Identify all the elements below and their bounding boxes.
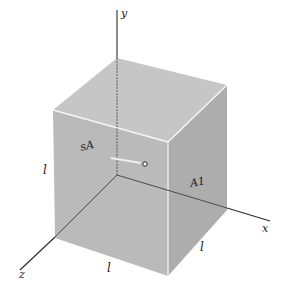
edge-label-front-bottom: l	[107, 261, 111, 275]
face-label-right: A1	[188, 175, 206, 191]
x-axis-label: x	[262, 222, 269, 235]
x-axis	[227, 208, 270, 221]
edge-label-right-bottom: l	[200, 240, 204, 254]
z-axis-label: z	[18, 268, 25, 281]
z-axis	[20, 237, 55, 270]
edge-label-left: l	[43, 163, 47, 177]
center-marker	[143, 162, 147, 166]
cube-diagram: y x z l l l sA A1	[0, 0, 285, 296]
y-axis-label: y	[120, 7, 128, 20]
